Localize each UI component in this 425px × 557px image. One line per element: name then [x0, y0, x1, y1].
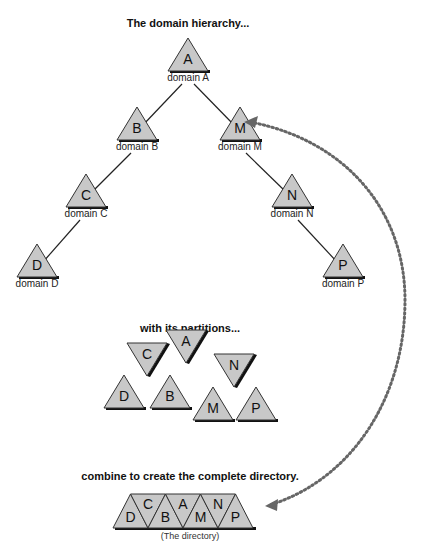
hierarchy-edge	[298, 220, 337, 262]
node-label: domain B	[116, 141, 159, 152]
node-letter: M	[234, 120, 246, 136]
partition-c: C	[127, 343, 170, 377]
hierarchy-edge	[43, 220, 80, 262]
node-letter: P	[338, 257, 347, 273]
svg-text:N: N	[229, 357, 239, 373]
domain-node-a: Adomain A	[167, 38, 210, 83]
svg-text:P: P	[231, 509, 240, 525]
hierarchy-nodes: Adomain ABdomain BMdomain MCdomain CNdom…	[16, 38, 365, 289]
svg-text:A: A	[178, 496, 188, 512]
hierarchy-edge	[143, 84, 182, 125]
svg-text:N: N	[213, 496, 223, 512]
svg-text:B: B	[165, 388, 174, 404]
domain-node-n: Ndomain N	[271, 174, 314, 219]
node-label: domain A	[167, 72, 209, 83]
hierarchy-edge	[194, 84, 234, 125]
node-letter: B	[132, 120, 141, 136]
node-label: domain D	[16, 278, 59, 289]
partition-d: D	[104, 375, 146, 410]
node-label: domain M	[218, 141, 262, 152]
domain-node-c: Cdomain C	[65, 174, 108, 219]
svg-text:C: C	[142, 346, 152, 362]
svg-text:P: P	[251, 400, 260, 416]
domain-diagram: Adomain ABdomain BMdomain MCdomain CNdom…	[0, 0, 425, 557]
arrowhead-bottom-icon	[265, 499, 278, 511]
node-label: domain N	[271, 208, 314, 219]
svg-text:B: B	[161, 509, 170, 525]
hierarchy-edge	[92, 153, 131, 192]
directory-strip: DCBAMNP	[113, 494, 256, 530]
partition-b: B	[150, 375, 192, 410]
partition-m: M	[193, 387, 235, 422]
partition-a: A	[166, 330, 209, 364]
svg-text:C: C	[143, 496, 153, 512]
node-letter: N	[287, 187, 297, 203]
svg-text:D: D	[119, 388, 129, 404]
svg-text:A: A	[181, 333, 191, 349]
node-label: domain P	[322, 278, 365, 289]
domain-node-b: Bdomain B	[116, 107, 159, 152]
hierarchy-edge	[246, 153, 286, 192]
domain-node-m: Mdomain M	[218, 107, 262, 152]
domain-node-p: Pdomain P	[322, 244, 365, 289]
partition-pieces: DCBAMNP	[104, 330, 278, 422]
svg-text:M: M	[195, 509, 207, 525]
node-letter: C	[81, 187, 91, 203]
node-letter: A	[183, 51, 193, 67]
node-letter: D	[32, 257, 42, 273]
svg-text:D: D	[125, 509, 135, 525]
node-label: domain C	[65, 208, 108, 219]
partition-p: P	[236, 387, 278, 422]
hierarchy-edges	[43, 84, 337, 262]
partition-n: N	[214, 354, 257, 388]
svg-text:M: M	[207, 400, 219, 416]
